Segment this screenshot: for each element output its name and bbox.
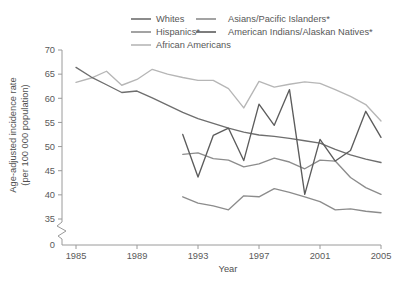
y-axis-title-line1: Age-adjusted incidence rate [8,77,18,192]
y-tick-label: 65 [45,69,55,79]
y-axis-title-line2: (per 100 000 population) [20,84,30,185]
chart-axes: 3540455055606570019851989199319972001200… [45,45,392,261]
legend-item[interactable]: Hispanics* [131,27,200,37]
chart-series-lines [76,67,381,212]
legend-label: Asians/Pacific Islanders* [228,14,330,24]
legend-item[interactable]: African Americans [131,40,231,50]
series-line [183,189,381,213]
y-tick-label: 40 [45,190,55,200]
series-line [76,67,381,162]
y-tick-label: 45 [45,166,55,176]
series-line [76,69,381,121]
legend-item[interactable]: Asians/Pacific Islanders* [196,14,330,24]
x-axis-title: Year [219,264,238,274]
x-tick-label: 2005 [371,251,392,261]
y-tick-label: 70 [45,45,55,55]
legend-item[interactable]: Whites [131,14,185,24]
x-tick-label: 1989 [127,251,148,261]
legend-label: Hispanics* [156,27,200,37]
chart-legend: WhitesAsians/Pacific Islanders*Hispanics… [131,14,373,50]
y-tick-label: 50 [45,142,55,152]
y-axis-break [57,219,66,245]
series-line [183,153,381,195]
y-tick-label-zero: 0 [50,240,55,250]
x-tick-label: 2001 [310,251,331,261]
y-tick-label: 35 [45,214,55,224]
y-tick-label: 55 [45,118,55,128]
x-tick-label: 1993 [188,251,209,261]
y-tick-label: 60 [45,94,55,104]
incidence-rate-line-chart: WhitesAsians/Pacific Islanders*Hispanics… [0,0,408,282]
chart-container: WhitesAsians/Pacific Islanders*Hispanics… [0,0,408,282]
legend-label: American Indians/Alaskan Natives* [228,27,373,37]
x-tick-label: 1997 [249,251,270,261]
legend-label: Whites [156,14,185,24]
legend-label: African Americans [156,40,231,50]
x-tick-label: 1985 [66,251,87,261]
legend-item[interactable]: American Indians/Alaskan Natives* [196,27,373,37]
